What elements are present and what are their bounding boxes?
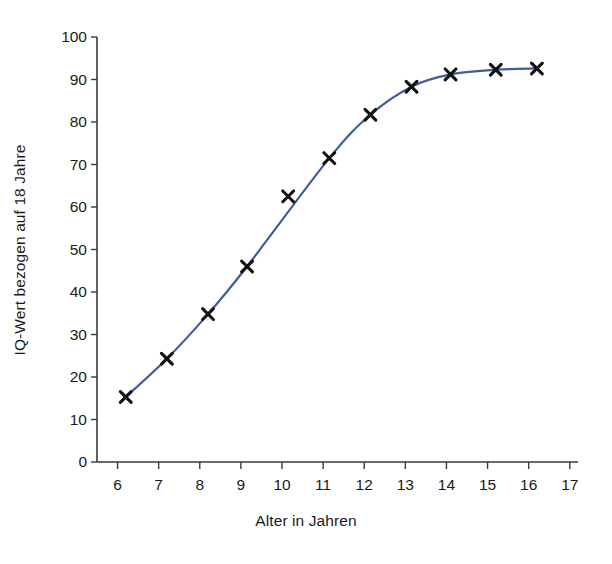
y-tick-label: 80 xyxy=(70,113,87,131)
axes xyxy=(97,37,578,462)
y-tick-label: 40 xyxy=(70,283,87,301)
y-axis-title: IQ-Wert bezogen auf 18 Jahre xyxy=(11,144,29,355)
y-tick-label: 70 xyxy=(70,156,87,174)
x-tick-label: 16 xyxy=(520,476,537,494)
x-axis-title: Alter in Jahren xyxy=(255,512,356,530)
y-tick-label: 100 xyxy=(61,28,87,46)
x-tick-label: 12 xyxy=(356,476,373,494)
data-point-marker xyxy=(365,109,376,120)
data-point-marker xyxy=(406,81,417,92)
x-tick-label: 14 xyxy=(438,476,455,494)
x-tick-label: 17 xyxy=(561,476,578,494)
x-tick-label: 10 xyxy=(273,476,290,494)
y-tick-label: 10 xyxy=(70,411,87,429)
data-markers xyxy=(120,63,542,402)
series-line xyxy=(126,68,537,397)
x-tick-label: 11 xyxy=(315,476,331,494)
data-point-marker xyxy=(324,153,335,164)
data-point-marker xyxy=(203,309,214,320)
x-tick-label: 7 xyxy=(154,476,163,494)
x-tick-label: 8 xyxy=(195,476,204,494)
y-tick-label: 50 xyxy=(70,241,87,259)
data-line xyxy=(126,68,537,397)
y-tick-label: 20 xyxy=(70,368,87,386)
data-point-marker xyxy=(120,392,131,403)
data-point-marker xyxy=(283,191,294,202)
y-tick-label: 60 xyxy=(70,198,87,216)
y-tick-label: 30 xyxy=(70,326,87,344)
data-point-marker xyxy=(242,261,253,272)
data-point-marker xyxy=(161,353,172,364)
y-tick-label: 90 xyxy=(70,71,87,89)
x-tick-label: 9 xyxy=(237,476,246,494)
y-tick-label: 0 xyxy=(78,453,87,471)
tick-marks xyxy=(91,37,570,469)
x-tick-label: 6 xyxy=(113,476,122,494)
x-tick-label: 13 xyxy=(397,476,414,494)
chart-figure: IQ-Wert bezogen auf 18 Jahre Alter in Ja… xyxy=(0,0,612,564)
x-tick-label: 15 xyxy=(479,476,496,494)
